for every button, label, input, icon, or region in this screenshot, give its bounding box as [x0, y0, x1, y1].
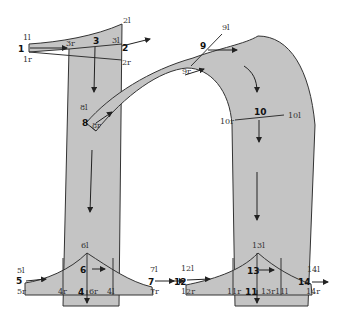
- lbl-2r: 2r: [122, 58, 131, 67]
- lbl-9r: 9r: [182, 67, 191, 76]
- lbl-14r: 14r: [306, 287, 320, 296]
- seg-2: 2: [122, 43, 128, 53]
- lbl-10r: 10r: [220, 117, 234, 126]
- seg-4: 4: [78, 287, 84, 297]
- seg-10: 10: [254, 107, 267, 117]
- lbl-10l: 10l: [288, 111, 301, 120]
- seg-5: 5: [16, 276, 22, 286]
- seg-3: 3: [93, 36, 99, 46]
- lbl-8l: 8l: [80, 103, 88, 112]
- lbl-1r: 1r: [23, 55, 32, 64]
- lbl-4r: 4r: [58, 287, 67, 296]
- seg-9: 9: [200, 41, 206, 51]
- lbl-6l: 6l: [81, 241, 89, 250]
- lbl-13r: 13r: [261, 287, 275, 296]
- lbl-11r: 11r: [227, 287, 241, 296]
- lbl-6r: 6r: [89, 287, 98, 296]
- lbl-2l: 2l: [123, 16, 131, 25]
- lbl-9l: 9l: [222, 23, 230, 32]
- seg-7: 7: [148, 277, 154, 287]
- lbl-4l: 4l: [107, 287, 115, 296]
- seg-11: 11: [245, 287, 258, 297]
- lbl-11l: 11l: [275, 287, 288, 296]
- lbl-8r: 8r: [92, 121, 101, 130]
- seg-13: 13: [247, 266, 260, 276]
- seg-1: 1: [18, 44, 24, 54]
- lbl-7l: 7l: [150, 265, 158, 274]
- lbl-13l: 13l: [252, 241, 265, 250]
- seg-8: 8: [82, 118, 88, 128]
- seg-12: 12: [174, 277, 187, 287]
- lbl-12l: 12l: [181, 264, 194, 273]
- letter-n-flow-diagram: 1 2 3 4 5 6 7 8 9 10 11 12 13 14 1l 1r 2…: [0, 0, 348, 315]
- lbl-5l: 5l: [17, 266, 25, 275]
- seg-14: 14: [298, 277, 311, 287]
- lbl-7r: 7r: [150, 287, 159, 296]
- lbl-14l: 14l: [307, 265, 320, 274]
- seg-6: 6: [80, 265, 86, 275]
- lbl-3l: 3l: [112, 36, 120, 45]
- lbl-1l: 1l: [23, 33, 31, 42]
- lbl-5r: 5r: [17, 287, 26, 296]
- lbl-3r: 3r: [66, 39, 75, 48]
- lbl-12r: 12r: [181, 287, 195, 296]
